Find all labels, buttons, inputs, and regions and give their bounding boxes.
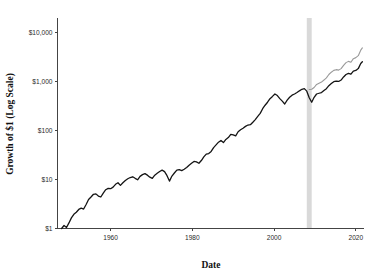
x-tick-label-0: 1960 [103, 234, 118, 241]
chart-background [0, 0, 368, 276]
y-tick-label-2: $100 [38, 127, 53, 134]
y-tick-label-0: $1 [45, 225, 53, 232]
chart-figure: $1$10$100$1,000$10,000 1960198020002020 … [0, 0, 368, 276]
x-axis-title: Date [202, 260, 221, 270]
x-tick-label-3: 2020 [348, 234, 363, 241]
x-tick-label-1: 1980 [185, 234, 200, 241]
y-tick-label-1: $10 [41, 176, 52, 183]
recession-highlight-band-0 [307, 18, 312, 229]
x-tick-label-2: 2000 [267, 234, 282, 241]
y-tick-label-3: $1,000 [32, 78, 53, 85]
highlight-band-group [307, 18, 312, 229]
y-tick-label-4: $10,000 [29, 29, 53, 36]
growth-of-dollar-log-chart: $1$10$100$1,000$10,000 1960198020002020 … [0, 0, 368, 276]
y-axis-title: Growth of $1 (Log Scale) [5, 73, 16, 175]
